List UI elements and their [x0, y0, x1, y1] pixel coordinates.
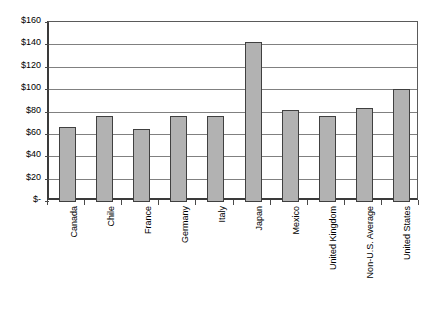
x-axis-tickmark [47, 200, 48, 205]
x-axis-tickmark [121, 200, 122, 205]
bar-chart: $-$20$40$60$80$100$120$140$160 CanadaChi… [0, 0, 435, 310]
x-axis-tickmark [344, 200, 345, 205]
x-axis-category-label: Non-U.S. Average [366, 206, 375, 278]
bar [356, 108, 373, 202]
bar [133, 129, 150, 202]
bar [170, 116, 187, 202]
x-axis-tickmark [84, 200, 85, 205]
bars-group [49, 22, 417, 198]
bar [245, 42, 262, 202]
bar [393, 89, 410, 202]
y-axis-tick-label: $100 [21, 83, 41, 92]
x-axis-category-label: Mexico [292, 206, 301, 235]
y-axis-tick-label: $40 [26, 150, 41, 159]
bar [59, 127, 76, 202]
x-axis-category-label: United Kingdom [329, 206, 338, 270]
y-axis-tick-label: $160 [21, 16, 41, 25]
x-axis-tickmark [158, 200, 159, 205]
x-axis-tickmark [418, 200, 419, 205]
x-axis-tickmark [270, 200, 271, 205]
x-axis-category-label: Italy [218, 206, 227, 223]
x-axis-tickmark [195, 200, 196, 205]
bar [319, 116, 336, 202]
x-axis-category-labels: CanadaChileFranceGermanyItalyJapanMexico… [47, 206, 418, 310]
y-axis-tick-label: $60 [26, 128, 41, 137]
x-axis-category-label: Chile [107, 206, 116, 227]
y-axis-tick-label: $80 [26, 106, 41, 115]
x-axis-category-label: United States [403, 206, 412, 260]
plot-area [47, 21, 418, 200]
x-axis-tickmark [307, 200, 308, 205]
x-axis-category-label: Germany [181, 206, 190, 243]
x-axis-category-label: France [144, 206, 153, 234]
bar [96, 116, 113, 202]
bar [282, 110, 299, 202]
x-axis-category-label: Canada [70, 206, 79, 238]
y-axis-tick-label: $- [33, 195, 41, 204]
y-axis-tick-labels: $-$20$40$60$80$100$120$140$160 [0, 0, 41, 310]
y-axis-tick-label: $20 [26, 173, 41, 182]
y-axis-tick-label: $120 [21, 61, 41, 70]
y-axis-tick-label: $140 [21, 38, 41, 47]
bar [207, 116, 224, 202]
x-axis-category-label: Japan [255, 206, 264, 231]
x-axis-tickmark [381, 200, 382, 205]
x-axis-tickmark [233, 200, 234, 205]
